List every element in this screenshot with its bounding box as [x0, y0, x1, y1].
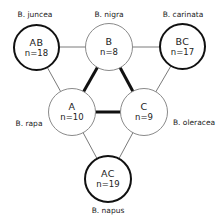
- genome-label: A: [69, 101, 76, 112]
- genome-label: AB: [29, 37, 43, 48]
- chromosome-count: n=10: [60, 112, 83, 123]
- node-B: B n=8: [85, 23, 133, 71]
- node-BC: BC n=17: [159, 23, 206, 70]
- label-b-juncea: B. juncea: [18, 11, 53, 19]
- chromosome-count: n=17: [171, 47, 194, 58]
- node-C: C n=9: [120, 88, 168, 136]
- label-b-oleracea: B. oleracea: [173, 119, 215, 127]
- label-b-rapa: B. rapa: [16, 120, 43, 128]
- node-A: A n=10: [48, 88, 96, 136]
- genome-label: BC: [176, 36, 190, 47]
- genome-label: C: [140, 101, 147, 112]
- genome-label: AC: [101, 168, 115, 179]
- label-b-napus: B. napus: [92, 207, 125, 215]
- chromosome-count: n=8: [100, 47, 118, 58]
- label-b-carinata: B. carinata: [163, 11, 204, 19]
- chromosome-count: n=9: [135, 112, 153, 123]
- genome-label: B: [105, 36, 112, 47]
- chromosome-count: n=18: [25, 48, 48, 59]
- label-b-nigra: B. nigra: [94, 11, 123, 19]
- node-AC: AC n=19: [84, 155, 132, 203]
- chromosome-count: n=19: [96, 179, 119, 190]
- node-AB: AB n=18: [13, 24, 60, 71]
